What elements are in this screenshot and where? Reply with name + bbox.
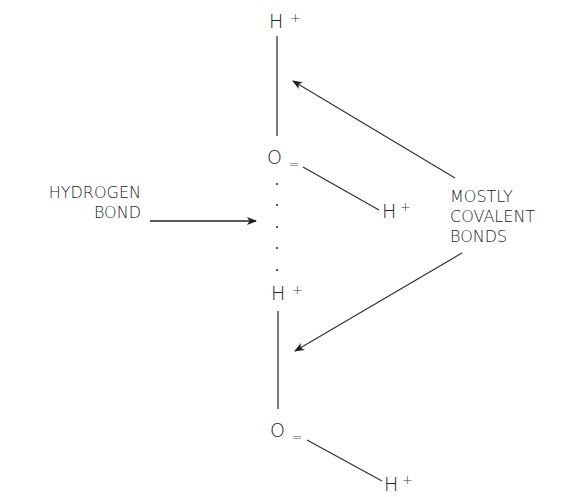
atom-h-top-lower: H bbox=[271, 284, 285, 303]
charge-h-side-upper: + bbox=[400, 200, 411, 213]
charge-h-side-lower: + bbox=[402, 473, 413, 486]
covalent-arrow-lower bbox=[295, 253, 462, 351]
covalent-arrow-upper bbox=[293, 81, 455, 178]
covalent-label-line-2: COVALENT bbox=[450, 207, 535, 227]
hydrogen-bond-label: HYDROGEN BOND bbox=[49, 183, 141, 223]
atom-h-top-upper: H bbox=[269, 12, 283, 31]
charge-o-upper: = bbox=[289, 158, 299, 170]
atom-h-side-upper: H bbox=[382, 202, 396, 221]
covalent-bond-line-upper-diagonal bbox=[303, 167, 379, 210]
charge-h-top-upper: + bbox=[290, 11, 301, 24]
hydrogen-bond-dots bbox=[276, 183, 278, 271]
covalent-bonds-label: MOSTLY COVALENT BONDS bbox=[450, 187, 535, 247]
charge-o-lower: = bbox=[292, 431, 302, 443]
covalent-label-line-1: MOSTLY bbox=[450, 187, 535, 207]
atom-o-upper: O bbox=[267, 148, 282, 167]
covalent-label-line-3: BONDS bbox=[450, 227, 535, 247]
hydrogen-bond-label-line-1: HYDROGEN bbox=[49, 183, 141, 203]
charge-h-top-lower: + bbox=[292, 283, 303, 296]
covalent-bond-line-lower-diagonal bbox=[307, 440, 382, 481]
hydrogen-bond-label-line-2: BOND bbox=[49, 203, 141, 223]
atom-h-side-lower: H bbox=[384, 475, 398, 494]
atom-o-lower: O bbox=[270, 421, 285, 440]
